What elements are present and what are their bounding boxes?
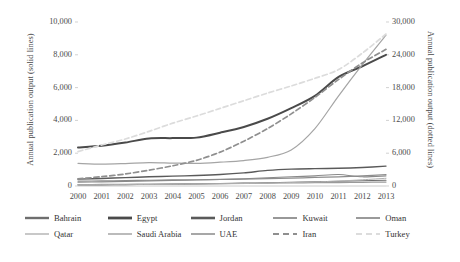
legend-swatch-icon bbox=[272, 230, 298, 238]
legend-row: QatarSaudi ArabiaUAEIranTurkey bbox=[24, 226, 438, 242]
y-tick-label-left: 2,000 bbox=[38, 148, 72, 157]
legend-label: Iran bbox=[302, 229, 316, 239]
x-tick-label: 2008 bbox=[255, 192, 281, 201]
legend-label: Turkey bbox=[385, 229, 410, 239]
legend-label: Oman bbox=[385, 213, 406, 223]
legend-swatch-icon bbox=[107, 214, 133, 222]
x-tick-label: 2011 bbox=[326, 192, 352, 201]
y-tick-label-left: 8,000 bbox=[38, 50, 72, 59]
y-tick-label-left: 6,000 bbox=[38, 83, 72, 92]
y-tick-label-right: 6,000 bbox=[392, 148, 426, 157]
x-tick-label: 2013 bbox=[373, 192, 399, 201]
legend-label: Qatar bbox=[54, 229, 73, 239]
x-tick-label: 2005 bbox=[183, 192, 209, 201]
legend-label: Kuwait bbox=[302, 213, 327, 223]
legend-swatch-icon bbox=[355, 230, 381, 238]
legend-item-turkey[interactable]: Turkey bbox=[355, 226, 438, 242]
data-series-group bbox=[78, 34, 386, 185]
chart-legend: BahrainEgyptJordanKuwaitOman QatarSaudi … bbox=[24, 210, 438, 246]
legend-label: Saudi Arabia bbox=[137, 229, 182, 239]
legend-label: Jordan bbox=[220, 213, 243, 223]
legend-swatch-icon bbox=[272, 214, 298, 222]
y-tick-label-right: 30,000 bbox=[392, 17, 426, 26]
x-tick-label: 2002 bbox=[112, 192, 138, 201]
x-tick-label: 2010 bbox=[302, 192, 328, 201]
legend-row: BahrainEgyptJordanKuwaitOman bbox=[24, 210, 438, 226]
legend-item-kuwait[interactable]: Kuwait bbox=[272, 210, 355, 226]
legend-swatch-icon bbox=[107, 230, 133, 238]
y-tick-label-left: 0 bbox=[38, 181, 72, 190]
x-tick-label: 2009 bbox=[278, 192, 304, 201]
y-tick-label-left: 10,000 bbox=[38, 17, 72, 26]
x-tick-label: 2012 bbox=[349, 192, 375, 201]
x-tick-label: 2007 bbox=[231, 192, 257, 201]
y-tick-label-right: 0 bbox=[392, 181, 426, 190]
legend-label: UAE bbox=[220, 229, 238, 239]
legend-item-saudi-arabia[interactable]: Saudi Arabia bbox=[107, 226, 190, 242]
legend-item-egypt[interactable]: Egypt bbox=[107, 210, 190, 226]
series-line-saudi-arabia bbox=[78, 35, 386, 164]
y-tick-label-right: 24,000 bbox=[392, 50, 426, 59]
legend-item-iran[interactable]: Iran bbox=[272, 226, 355, 242]
x-tick-label: 2000 bbox=[65, 192, 91, 201]
legend-swatch-icon bbox=[24, 214, 50, 222]
chart-figure: Annual publication output (solid lines) … bbox=[0, 0, 460, 262]
legend-swatch-icon bbox=[190, 230, 216, 238]
y-tick-label-right: 18,000 bbox=[392, 83, 426, 92]
legend-swatch-icon bbox=[190, 214, 216, 222]
x-tick-label: 2006 bbox=[207, 192, 233, 201]
legend-item-jordan[interactable]: Jordan bbox=[190, 210, 273, 226]
series-line-turkey bbox=[78, 34, 386, 152]
legend-swatch-icon bbox=[355, 214, 381, 222]
x-tick-label: 2003 bbox=[136, 192, 162, 201]
y-tick-label-left: 4,000 bbox=[38, 115, 72, 124]
legend-swatch-icon bbox=[24, 230, 50, 238]
legend-item-bahrain[interactable]: Bahrain bbox=[24, 210, 107, 226]
legend-label: Bahrain bbox=[54, 213, 81, 223]
legend-item-qatar[interactable]: Qatar bbox=[24, 226, 107, 242]
x-tick-label: 2004 bbox=[160, 192, 186, 201]
legend-label: Egypt bbox=[137, 213, 158, 223]
legend-item-oman[interactable]: Oman bbox=[355, 210, 438, 226]
x-tick-label: 2001 bbox=[89, 192, 115, 201]
y-tick-label-right: 12,000 bbox=[392, 115, 426, 124]
legend-item-uae[interactable]: UAE bbox=[190, 226, 273, 242]
